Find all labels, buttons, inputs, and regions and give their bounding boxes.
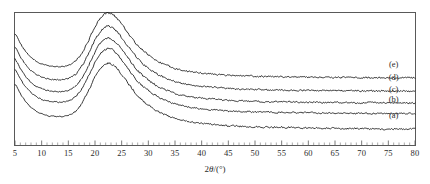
xrd-chart: 5101520253035404550556065707580 (a)(b)(c…: [0, 0, 430, 184]
x-axis-tick-label: 55: [277, 148, 286, 158]
x-axis-tick-label: 80: [411, 148, 420, 158]
curve-label-e: (e): [389, 59, 399, 69]
x-axis-tick-label: 15: [64, 148, 73, 158]
curve-label-a: (a): [389, 110, 399, 120]
curve-labels: (a)(b)(c)(d)(e): [389, 59, 399, 120]
x-axis-tick-label: 5: [13, 148, 17, 158]
x-axis-tick-label: 50: [251, 148, 260, 158]
x-axis-tick-label: 20: [91, 148, 100, 158]
curve-label-d: (d): [389, 72, 399, 82]
x-axis-tick-label: 45: [224, 148, 233, 158]
curve-label-c: (c): [389, 84, 399, 94]
x-axis-title: 2θ/(°): [204, 164, 225, 174]
x-axis-tick-label: 60: [304, 148, 313, 158]
x-axis-tick-label: 35: [171, 148, 180, 158]
x-axis-tick-label: 75: [384, 148, 393, 158]
x-axis-tick-label: 40: [197, 148, 206, 158]
x-axis-tick-label: 30: [144, 148, 153, 158]
x-axis-tick-label: 65: [331, 148, 340, 158]
x-axis-tick-label: 70: [357, 148, 366, 158]
x-axis-tick-label: 10: [37, 148, 46, 158]
xrd-figure: 5101520253035404550556065707580 (a)(b)(c…: [0, 0, 430, 184]
curve-label-b: (b): [389, 94, 399, 104]
x-axis-tick-label: 25: [117, 148, 126, 158]
